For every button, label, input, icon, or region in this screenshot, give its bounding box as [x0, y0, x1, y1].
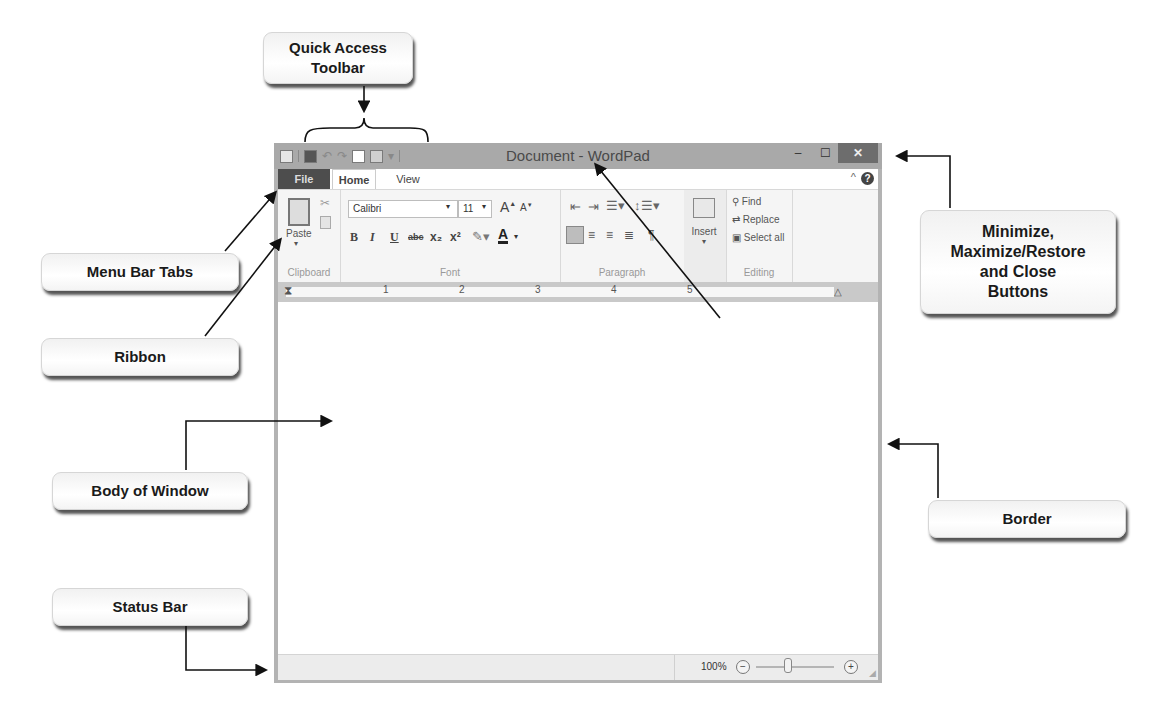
annotation-arrows [0, 0, 1163, 715]
